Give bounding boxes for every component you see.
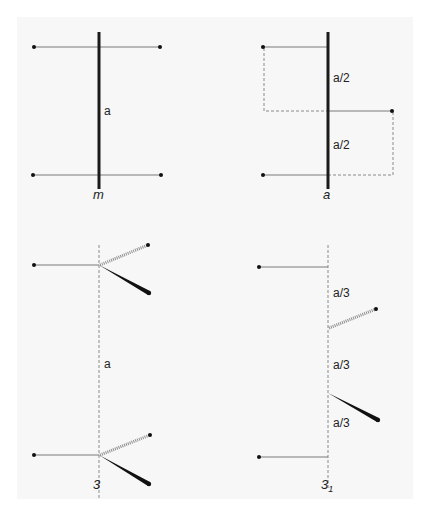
point-icon — [257, 455, 261, 459]
axis-label-subscript: 1 — [328, 484, 333, 494]
axis-label: a — [323, 187, 330, 202]
point-icon — [146, 243, 150, 247]
segment-label: a/3 — [333, 286, 350, 300]
point-icon — [257, 265, 261, 269]
axis-label: m — [93, 187, 104, 202]
point-icon — [32, 263, 36, 267]
point-icon — [147, 291, 151, 295]
point-icon — [147, 482, 151, 486]
segment-label: a/2 — [333, 138, 350, 152]
symmetry-diagram: a m a/2 a/2 a a 3 — [0, 0, 429, 515]
segment-label: a/2 — [333, 71, 350, 85]
segment-label: a — [104, 104, 111, 118]
point-icon — [159, 173, 163, 177]
point-icon — [32, 45, 36, 49]
diagram-background — [17, 17, 413, 499]
point-icon — [261, 173, 265, 177]
segment-label: a — [104, 357, 111, 371]
point-icon — [374, 307, 378, 311]
point-icon — [390, 109, 394, 113]
segment-label: a/3 — [333, 358, 350, 372]
point-icon — [261, 45, 265, 49]
axis-label: 3 — [93, 477, 101, 492]
point-icon — [148, 433, 152, 437]
point-icon — [31, 173, 35, 177]
point-icon — [32, 453, 36, 457]
segment-label: a/3 — [333, 416, 350, 430]
point-icon — [376, 418, 380, 422]
point-icon — [158, 45, 162, 49]
